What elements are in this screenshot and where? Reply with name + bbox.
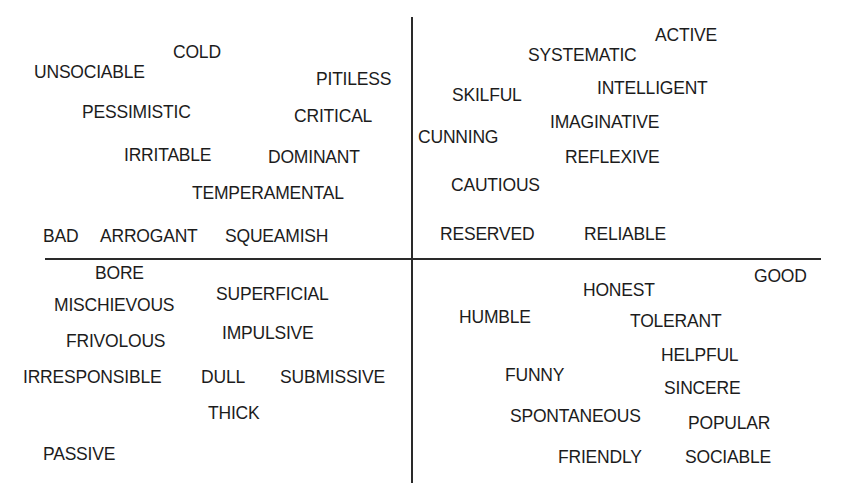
- trait-word-irresponsible: IRRESPONSIBLE: [23, 369, 161, 387]
- trait-word-tolerant: TOLERANT: [630, 313, 721, 331]
- trait-quadrant-diagram: COLDUNSOCIABLEPITILESSPESSIMISTICCRITICA…: [0, 0, 842, 502]
- trait-word-humble: HUMBLE: [459, 309, 531, 327]
- trait-word-dull: DULL: [201, 369, 245, 387]
- trait-word-sincere: SINCERE: [664, 380, 740, 398]
- trait-word-squeamish: SQUEAMISH: [225, 228, 328, 246]
- trait-word-cautious: CAUTIOUS: [451, 177, 540, 195]
- trait-word-submissive: SUBMISSIVE: [280, 369, 385, 387]
- trait-word-reliable: RELIABLE: [584, 226, 666, 244]
- trait-word-bore: BORE: [95, 265, 144, 283]
- trait-word-intelligent: INTELLIGENT: [597, 80, 708, 98]
- trait-word-frivolous: FRIVOLOUS: [66, 333, 165, 351]
- trait-word-superficial: SUPERFICIAL: [216, 286, 329, 304]
- trait-word-unsociable: UNSOCIABLE: [34, 64, 145, 82]
- trait-word-reflexive: REFLEXIVE: [565, 149, 659, 167]
- trait-word-thick: THICK: [208, 405, 260, 423]
- vertical-axis-line: [411, 17, 413, 483]
- trait-word-critical: CRITICAL: [294, 108, 372, 126]
- trait-word-impulsive: IMPULSIVE: [222, 325, 314, 343]
- trait-word-friendly: FRIENDLY: [558, 449, 642, 467]
- trait-word-cunning: CUNNING: [418, 129, 498, 147]
- trait-word-spontaneous: SPONTANEOUS: [510, 408, 641, 426]
- trait-word-sociable: SOCIABLE: [685, 449, 771, 467]
- trait-word-good: GOOD: [754, 268, 807, 286]
- trait-word-popular: POPULAR: [688, 415, 770, 433]
- trait-word-pitiless: PITILESS: [316, 71, 391, 89]
- trait-word-passive: PASSIVE: [43, 446, 115, 464]
- trait-word-imaginative: IMAGINATIVE: [550, 114, 659, 132]
- trait-word-bad: BAD: [43, 228, 78, 246]
- trait-word-systematic: SYSTEMATIC: [528, 47, 637, 65]
- trait-word-mischievous: MISCHIEVOUS: [54, 297, 174, 315]
- trait-word-active: ACTIVE: [655, 27, 717, 45]
- trait-word-temperamental: TEMPERAMENTAL: [192, 185, 344, 203]
- trait-word-irritable: IRRITABLE: [124, 147, 211, 165]
- trait-word-arrogant: ARROGANT: [100, 228, 198, 246]
- horizontal-axis-line: [45, 258, 821, 260]
- trait-word-cold: COLD: [173, 44, 221, 62]
- trait-word-funny: FUNNY: [505, 367, 564, 385]
- trait-word-helpful: HELPFUL: [661, 347, 738, 365]
- trait-word-reserved: RESERVED: [440, 226, 534, 244]
- trait-word-skilful: SKILFUL: [452, 87, 522, 105]
- trait-word-pessimistic: PESSIMISTIC: [82, 104, 191, 122]
- trait-word-honest: HONEST: [583, 282, 655, 300]
- trait-word-dominant: DOMINANT: [268, 149, 360, 167]
